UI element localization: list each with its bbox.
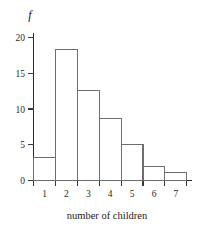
- histogram-figure: 20 15 10 5 0 f: [0, 0, 204, 230]
- bar-1: [34, 158, 56, 181]
- x-tick-label-6: 6: [152, 189, 157, 199]
- y-tick-label-10: 10: [16, 105, 26, 115]
- bar-4: [99, 118, 121, 180]
- x-axis-label: number of children: [67, 210, 148, 221]
- x-tick-label-2: 2: [64, 189, 69, 199]
- y-tick-label-20: 20: [16, 33, 26, 43]
- y-axis-label: f: [28, 8, 33, 22]
- x-axis-ticks: [34, 181, 187, 187]
- y-axis-ticks: [28, 38, 34, 181]
- bar-2: [55, 50, 77, 181]
- x-tick-label-1: 1: [42, 189, 47, 199]
- y-axis-tick-labels: 20 15 10 5 0: [16, 33, 26, 186]
- chart-canvas: 20 15 10 5 0 f: [0, 0, 204, 230]
- x-tick-label-3: 3: [86, 189, 91, 199]
- y-tick-label-5: 5: [20, 140, 25, 150]
- x-tick-label-7: 7: [174, 189, 179, 199]
- bars-group: [34, 50, 187, 181]
- y-tick-label-0: 0: [20, 176, 25, 186]
- x-axis-tick-labels: 1 2 3 4 5 6 7: [42, 189, 178, 199]
- bar-7: [165, 173, 187, 181]
- bar-6: [143, 166, 165, 180]
- bar-3: [77, 91, 99, 181]
- x-tick-label-4: 4: [108, 189, 113, 199]
- y-tick-label-15: 15: [16, 69, 26, 79]
- x-tick-label-5: 5: [130, 189, 135, 199]
- bar-5: [121, 145, 143, 181]
